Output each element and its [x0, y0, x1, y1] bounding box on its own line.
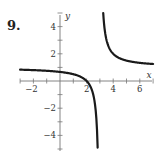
x-tick-label: 2	[84, 84, 89, 94]
curve-right-branch	[103, 13, 153, 64]
x-tick-label: 4	[110, 84, 115, 94]
y-tick-label: −4	[43, 130, 56, 140]
x-axis-label: x	[146, 70, 151, 80]
y-tick-label: 2	[51, 49, 56, 59]
x-tick-label: 6	[137, 84, 142, 94]
y-tick-label: −2	[43, 103, 56, 113]
y-axis-label: y	[64, 11, 71, 21]
y-tick-label: 4	[51, 22, 56, 32]
x-tick-label: −2	[25, 84, 38, 94]
rational-function-graph: −2246−4−224xy	[0, 0, 161, 160]
